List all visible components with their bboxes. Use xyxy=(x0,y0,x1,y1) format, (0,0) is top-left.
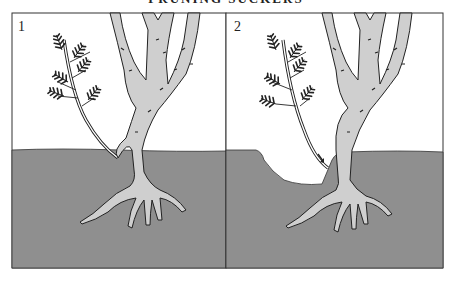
panel-number-2: 2 xyxy=(234,19,241,34)
soil-panel-2 xyxy=(226,150,443,268)
panel-1: 1 xyxy=(12,13,226,268)
panel-2: 2 xyxy=(226,13,443,268)
soil-panel-1 xyxy=(12,149,226,268)
sucker-diagram: 1 2 xyxy=(0,0,452,289)
panel-number-1: 1 xyxy=(18,19,25,34)
